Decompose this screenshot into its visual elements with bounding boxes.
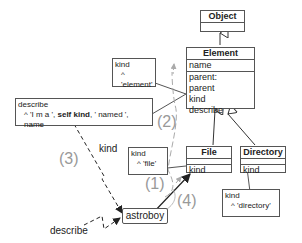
class-file[interactable]: File kind — [186, 146, 232, 173]
step-1: (1) — [145, 175, 165, 193]
element-attr-name: name — [187, 60, 254, 72]
note-file-kind: kind ^ 'file' — [128, 147, 168, 175]
message-kind-label: kind — [99, 143, 117, 154]
class-element-name: Element — [187, 48, 254, 60]
message-describe-label: describe — [50, 225, 88, 236]
element-method-kind: kind — [187, 94, 254, 105]
element-method-parent-setter: parent: — [187, 72, 254, 83]
step-2: (2) — [157, 113, 177, 131]
file-method-kind: kind — [187, 165, 231, 176]
instance-astroboy[interactable]: astroboy — [122, 208, 168, 224]
step-4: (4) — [177, 192, 197, 210]
class-element[interactable]: Element name parent: parent kind describ… — [186, 47, 255, 109]
class-object[interactable]: Object — [200, 10, 245, 32]
step-3: (3) — [59, 150, 79, 168]
class-object-name: Object — [201, 11, 244, 23]
inherit-directory-element — [228, 114, 255, 145]
note-describe: describe ^ 'I m a ', self kind, ' named … — [15, 98, 153, 126]
element-method-describe: describe — [187, 105, 254, 116]
class-directory-name: Directory — [241, 147, 285, 159]
note-element-kind: kind ^ 'element' — [112, 58, 156, 87]
class-file-name: File — [187, 147, 231, 159]
note-directory-kind: kind ^ 'directory' — [222, 189, 280, 217]
element-method-parent: parent — [187, 83, 254, 94]
class-directory[interactable]: Directory kind — [240, 146, 286, 173]
directory-method-kind: kind — [241, 165, 285, 176]
